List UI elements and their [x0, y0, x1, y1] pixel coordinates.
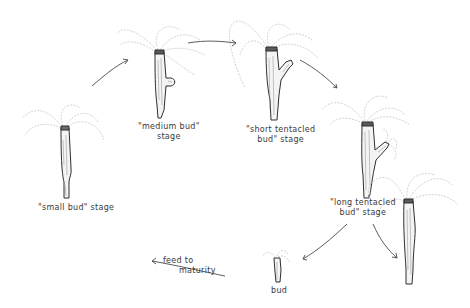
arrow-small-to-medium: [92, 59, 128, 86]
hydra-adult-parent: [368, 174, 458, 284]
label-medium-bud-line2: stage: [138, 132, 200, 142]
label-long-tentacled-bud-stage: "long tentacled bud" stage: [330, 198, 396, 218]
label-medium-bud-stage: "medium bud" stage: [138, 122, 200, 142]
label-long-tentacled-line1: "long tentacled: [330, 198, 396, 208]
label-short-tentacled-line2: bud" stage: [246, 135, 315, 145]
arrow-medium-to-short-tentacled: [188, 40, 236, 46]
label-long-tentacled-line2: bud" stage: [330, 208, 396, 218]
label-feed-to-maturity: feed to maturity: [163, 256, 216, 276]
arrow-long-tentacled-to-bud: [303, 224, 347, 260]
label-bud: bud: [271, 286, 287, 296]
hydra-detached-bud: [263, 251, 289, 283]
hydra-long-tentacled-bud-stage: [322, 96, 410, 198]
hydra-short-tentacled-bud-stage: [230, 21, 318, 120]
label-short-tentacled-line1: "short tentacled: [246, 125, 315, 135]
label-small-bud-stage: "small bud" stage: [38, 203, 114, 213]
label-medium-bud-line1: "medium bud": [138, 122, 200, 132]
arrow-long-tentacled-to-adult: [373, 224, 397, 258]
hydra-small-bud-stage: [22, 105, 104, 198]
hydra-budding-diagram: [0, 0, 470, 308]
hydra-medium-bud-stage: [118, 27, 205, 118]
label-feed-to-line2: maturity: [163, 266, 216, 276]
label-feed-to-line1: feed to: [163, 256, 216, 266]
arrow-short-tentacled-to-long-tentacled: [300, 60, 337, 88]
label-short-tentacled-bud-stage: "short tentacled bud" stage: [246, 125, 315, 145]
